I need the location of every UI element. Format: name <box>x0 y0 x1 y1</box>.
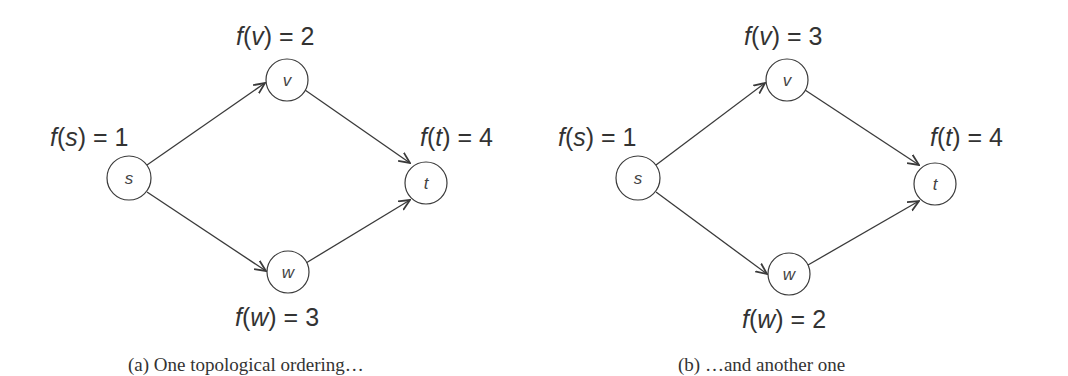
node-w: w <box>267 251 309 293</box>
node-v: v <box>266 59 308 101</box>
edge-w-t <box>808 201 919 265</box>
node-t: t <box>914 163 956 205</box>
edge-s-w <box>147 192 266 271</box>
edge-s-v <box>656 83 765 165</box>
edge-s-w <box>656 192 767 274</box>
node-label: w <box>783 265 797 284</box>
node-s: s <box>616 156 660 200</box>
node-label: s <box>125 169 134 188</box>
panel-a: s v w t f(s) = 1 f(v) = 2 f(w) = 3 f(t) … <box>50 22 493 376</box>
order-label-w: f(w) = 2 <box>742 305 826 333</box>
caption-b: (b) …and another one <box>678 354 845 376</box>
edges <box>147 83 410 271</box>
node-label: s <box>634 169 643 188</box>
order-label-v: f(v) = 2 <box>236 22 315 50</box>
edge-v-t <box>805 90 919 165</box>
order-label-t: f(t) = 4 <box>930 123 1003 151</box>
caption-a: (a) One topological ordering… <box>128 354 364 376</box>
topological-ordering-figure: s v w t f(s) = 1 f(v) = 2 f(w) = 3 f(t) … <box>0 0 1068 376</box>
edges <box>656 83 919 274</box>
node-label: w <box>282 263 296 282</box>
node-v: v <box>766 59 808 101</box>
order-label-v: f(v) = 3 <box>744 22 823 50</box>
node-t: t <box>405 162 447 204</box>
node-s: s <box>107 156 151 200</box>
edge-s-v <box>147 83 265 165</box>
node-w: w <box>768 253 810 295</box>
panel-b: s v w t f(s) = 1 f(v) = 3 f(w) = 2 f(t) … <box>558 22 1003 376</box>
order-label-t: f(t) = 4 <box>420 123 493 151</box>
order-label-w: f(w) = 3 <box>235 303 319 331</box>
order-label-s: f(s) = 1 <box>50 123 129 151</box>
edge-w-t <box>306 200 410 263</box>
order-label-s: f(s) = 1 <box>558 123 637 151</box>
edge-v-t <box>305 90 410 163</box>
